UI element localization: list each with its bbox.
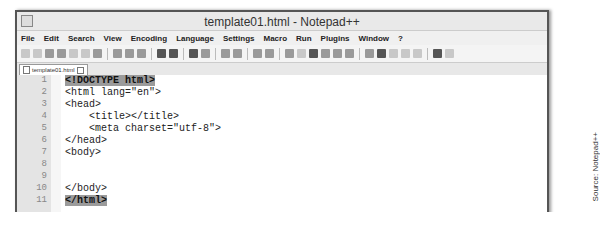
menu-run[interactable]: Run — [296, 34, 312, 43]
code-line: <meta charset="utf-8"> — [65, 123, 221, 134]
show-all-chars-icon[interactable] — [297, 49, 306, 58]
torn-edge — [0, 212, 604, 231]
line-number: 8 — [17, 159, 47, 169]
toolbar-divider — [279, 48, 280, 60]
code-line: </body> — [65, 183, 107, 194]
menu-window[interactable]: Window — [358, 34, 389, 43]
fold-margin[interactable] — [51, 75, 61, 222]
code-line: </html> — [65, 195, 107, 206]
close-tab-icon[interactable] — [77, 67, 84, 74]
menu-help[interactable]: ? — [398, 34, 403, 43]
toolbar-divider — [427, 48, 428, 60]
line-number: 4 — [17, 111, 47, 121]
run-macro-multiple-icon[interactable] — [401, 49, 410, 58]
toolbar-divider — [151, 48, 152, 60]
open-file-icon[interactable] — [33, 49, 42, 58]
line-number: 1 — [17, 75, 47, 85]
save-all-icon[interactable] — [57, 49, 66, 58]
replace-icon[interactable] — [201, 49, 210, 58]
sync-vertical-icon[interactable] — [253, 49, 262, 58]
tab-label: template01.html — [32, 67, 75, 73]
editor[interactable]: 1 <!DOCTYPE html> 2 <html lang="en"> 3 <… — [17, 75, 547, 222]
indent-guide-icon[interactable] — [309, 49, 318, 58]
sync-horizontal-icon[interactable] — [265, 49, 274, 58]
line-number: 10 — [17, 183, 47, 193]
code-line: <head> — [65, 99, 101, 110]
spellcheck-icon[interactable] — [433, 49, 442, 58]
toolbar-divider — [183, 48, 184, 60]
redo-icon[interactable] — [169, 49, 178, 58]
file-icon — [23, 66, 30, 74]
code-line: <title></title> — [65, 111, 179, 122]
toolbar-divider — [247, 48, 248, 60]
record-macro-icon[interactable] — [365, 49, 374, 58]
undo-icon[interactable] — [157, 49, 166, 58]
line-number: 2 — [17, 87, 47, 97]
menu-view[interactable]: View — [104, 34, 122, 43]
line-number: 3 — [17, 99, 47, 109]
menu-language[interactable]: Language — [176, 34, 214, 43]
save-icon[interactable] — [45, 49, 54, 58]
code-line: <!DOCTYPE html> — [65, 75, 155, 86]
notepadpp-window: template01.html - Notepad++ File Edit Se… — [15, 10, 549, 222]
title-bar: template01.html - Notepad++ — [17, 12, 547, 31]
doctype-tag: <!DOCTYPE html> — [65, 75, 155, 86]
close-all-icon[interactable] — [81, 49, 90, 58]
code-line: <body> — [65, 147, 101, 158]
toolbar-divider — [215, 48, 216, 60]
code-line: </head> — [65, 135, 107, 146]
menu-encoding[interactable]: Encoding — [131, 34, 167, 43]
menu-settings[interactable]: Settings — [223, 34, 255, 43]
zoom-out-icon[interactable] — [233, 49, 242, 58]
toolbar-divider — [107, 48, 108, 60]
folder-workspace-icon[interactable] — [345, 49, 354, 58]
source-caption: Source: Notepad++ — [591, 132, 600, 201]
word-wrap-icon[interactable] — [285, 49, 294, 58]
closing-html-tag: </html> — [65, 195, 107, 206]
line-number: 7 — [17, 147, 47, 157]
cut-icon[interactable] — [113, 49, 122, 58]
function-list-icon[interactable] — [333, 49, 342, 58]
window-title: template01.html - Notepad++ — [17, 15, 547, 29]
tab-template01[interactable]: template01.html — [19, 64, 88, 75]
toolbar — [17, 45, 547, 63]
menu-macro[interactable]: Macro — [263, 34, 287, 43]
line-number: 9 — [17, 171, 47, 181]
menu-bar: File Edit Search View Encoding Language … — [17, 31, 547, 45]
play-macro-icon[interactable] — [389, 49, 398, 58]
line-number: 5 — [17, 123, 47, 133]
find-icon[interactable] — [189, 49, 198, 58]
copy-icon[interactable] — [125, 49, 134, 58]
close-icon[interactable] — [69, 49, 78, 58]
doc-map-icon[interactable] — [321, 49, 330, 58]
code-line: <html lang="en"> — [65, 87, 161, 98]
menu-edit[interactable]: Edit — [44, 34, 59, 43]
plugin-icon[interactable] — [445, 49, 454, 58]
menu-plugins[interactable]: Plugins — [321, 34, 350, 43]
line-number: 11 — [17, 195, 47, 205]
toolbar-divider — [359, 48, 360, 60]
paste-icon[interactable] — [137, 49, 146, 58]
save-macro-icon[interactable] — [413, 49, 422, 58]
line-number: 6 — [17, 135, 47, 145]
stop-macro-icon[interactable] — [377, 49, 386, 58]
zoom-in-icon[interactable] — [221, 49, 230, 58]
menu-file[interactable]: File — [21, 34, 35, 43]
print-icon[interactable] — [93, 49, 102, 58]
menu-search[interactable]: Search — [68, 34, 95, 43]
new-file-icon[interactable] — [21, 49, 30, 58]
